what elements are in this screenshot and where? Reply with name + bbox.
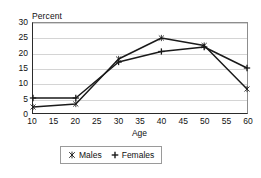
x-tick-label: 40	[150, 116, 174, 126]
y-tick-label: 5	[2, 94, 28, 104]
y-tick-label: 15	[2, 63, 28, 73]
y-tick-label: 20	[2, 48, 28, 58]
legend-label-males: Males	[79, 150, 102, 160]
series-lines	[33, 23, 247, 113]
legend-item-males: Males	[68, 150, 102, 160]
legend-item-females: Females	[111, 150, 155, 160]
chart-figure: Percent 051015202530 1015202530354045505…	[0, 0, 261, 178]
x-tick-label: 60	[236, 116, 260, 126]
x-axis-title: Age	[0, 128, 261, 138]
series-males	[30, 35, 249, 110]
y-tick-label: 10	[2, 78, 28, 88]
x-tick-label: 20	[63, 116, 87, 126]
x-tick-label: 50	[193, 116, 217, 126]
y-axis-title: Percent	[32, 11, 62, 21]
chart-legend: Males Females	[60, 146, 162, 164]
plot-area	[32, 22, 248, 114]
x-tick-label: 25	[85, 116, 109, 126]
x-tick-label: 30	[106, 116, 130, 126]
x-tick-label: 15	[42, 116, 66, 126]
y-tick-label: 30	[2, 17, 28, 27]
x-tick-label: 45	[171, 116, 195, 126]
plus-marker-icon	[111, 151, 119, 159]
series-females	[30, 44, 250, 101]
legend-label-females: Females	[122, 150, 155, 160]
x-tick-label: 10	[20, 116, 44, 126]
y-tick-label: 25	[2, 32, 28, 42]
x-tick-label: 35	[128, 116, 152, 126]
asterisk-marker-icon	[68, 151, 76, 159]
x-tick-label: 55	[214, 116, 238, 126]
